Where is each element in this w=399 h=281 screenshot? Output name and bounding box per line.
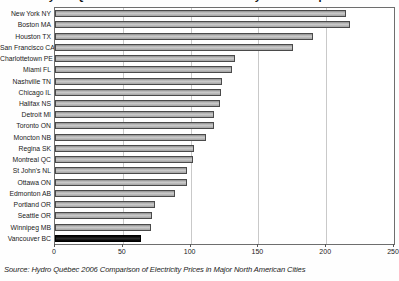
category-label: Nashville TN — [0, 76, 51, 87]
bar-winnipeg-mb — [55, 224, 151, 231]
bar-seattle-or — [55, 212, 152, 219]
plot-area — [54, 7, 395, 245]
bar-montreal-qc — [55, 156, 193, 163]
x-tick-mark-0 — [54, 244, 55, 247]
chart-title: Hydro Quebec 2006 Residential Electricit… — [0, 0, 399, 2]
bar-portland-or — [55, 201, 155, 208]
bar-row — [55, 31, 394, 42]
bar-row — [55, 87, 394, 98]
bar-miami-fl — [55, 66, 232, 73]
bar-row — [55, 76, 394, 87]
category-label: Montreal QC — [0, 154, 51, 165]
bar-chicago-il — [55, 89, 221, 96]
category-label: Vancouver BC — [0, 233, 51, 244]
category-label: Winnipeg MB — [0, 222, 51, 233]
category-label: Moncton NB — [0, 132, 51, 143]
category-label: Regina SK — [0, 143, 51, 154]
bar-boston-ma — [55, 21, 350, 28]
x-tick-mark-100 — [190, 244, 191, 247]
bar-new-york-ny — [55, 10, 346, 17]
x-tick-mark-50 — [122, 244, 123, 247]
bar-san-francisco-ca — [55, 44, 293, 51]
x-tick-label: 0 — [52, 248, 56, 255]
category-label: Toronto ON — [0, 120, 51, 131]
bar-row — [55, 53, 394, 64]
bar-moncton-nb — [55, 134, 206, 141]
category-label: Seattle OR — [0, 210, 51, 221]
bar-row — [55, 42, 394, 53]
bar-row — [55, 177, 394, 188]
bar-halifax-ns — [55, 100, 220, 107]
bar-toronto-on — [55, 122, 214, 129]
bar-row — [55, 132, 394, 143]
category-label: New York NY — [0, 8, 51, 19]
x-tick-label: 150 — [252, 248, 264, 255]
x-tick-label: 50 — [118, 248, 126, 255]
bar-row — [55, 154, 394, 165]
bar-series — [55, 8, 394, 244]
category-label: San Francisco CA — [0, 42, 51, 53]
category-axis-labels: New York NYBoston MAHouston TXSan Franci… — [0, 8, 51, 244]
x-tick-label: 200 — [319, 248, 331, 255]
bar-ottawa-on — [55, 179, 187, 186]
bar-row — [55, 8, 394, 19]
category-label: Charlottetown PE — [0, 53, 51, 64]
bar-row — [55, 233, 394, 244]
x-tick-mark-150 — [257, 244, 258, 247]
bar-vancouver-bc — [55, 235, 141, 242]
category-label: Ottawa ON — [0, 177, 51, 188]
bar-row — [55, 165, 394, 176]
bar-row — [55, 199, 394, 210]
category-label: Boston MA — [0, 19, 51, 30]
x-tick-label: 250 — [387, 248, 399, 255]
bar-detroit-mi — [55, 111, 214, 118]
bar-charlottetown-pe — [55, 55, 235, 62]
category-label: Chicago IL — [0, 87, 51, 98]
category-label: Edmonton AB — [0, 188, 51, 199]
bar-regina-sk — [55, 145, 194, 152]
category-label: St John's NL — [0, 165, 51, 176]
bar-row — [55, 120, 394, 131]
x-tick-mark-250 — [393, 244, 394, 247]
bar-houston-tx — [55, 33, 313, 40]
bar-row — [55, 19, 394, 30]
bar-st-john-s-nl — [55, 167, 187, 174]
bar-nashville-tn — [55, 78, 222, 85]
bar-edmonton-ab — [55, 190, 175, 197]
x-tick-label: 100 — [184, 248, 196, 255]
category-label: Miami FL — [0, 64, 51, 75]
source-note: Source: Hydro Québec 2006 Comparison of … — [4, 265, 305, 274]
category-label: Detroit MI — [0, 109, 51, 120]
bar-row — [55, 222, 394, 233]
bar-row — [55, 143, 394, 154]
bar-row — [55, 210, 394, 221]
category-label: Portland OR — [0, 199, 51, 210]
bar-row — [55, 98, 394, 109]
x-tick-mark-200 — [325, 244, 326, 247]
category-label: Houston TX — [0, 31, 51, 42]
chart-screenshot: Hydro Quebec 2006 Residential Electricit… — [0, 0, 399, 281]
bar-row — [55, 64, 394, 75]
bar-row — [55, 188, 394, 199]
bar-row — [55, 109, 394, 120]
category-label: Halifax NS — [0, 98, 51, 109]
